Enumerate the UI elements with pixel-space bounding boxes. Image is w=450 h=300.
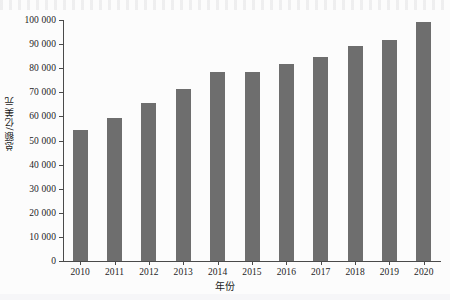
y-tick-label: 70 000 — [29, 87, 56, 97]
y-tick-label: 20 000 — [29, 208, 56, 218]
y-tick-label: 0 — [51, 256, 56, 266]
y-tick-label: 90 000 — [29, 39, 56, 49]
x-tick-mark — [424, 261, 425, 265]
x-tick-mark — [389, 261, 390, 265]
bar — [73, 130, 88, 261]
plot-area: 010 00020 00030 00040 00050 00060 00070 … — [63, 20, 441, 261]
x-tick-mark — [218, 261, 219, 265]
y-tick-label: 10 000 — [29, 232, 56, 242]
y-tick-label: 80 000 — [29, 63, 56, 73]
bar — [176, 89, 191, 261]
x-tick-label: 2014 — [208, 267, 227, 277]
x-tick-mark — [355, 261, 356, 265]
bar — [245, 72, 260, 261]
y-tick-mark — [59, 20, 63, 21]
x-tick-label: 2010 — [70, 267, 89, 277]
x-tick-mark — [149, 261, 150, 265]
bar — [107, 118, 122, 261]
chart-page: 总额/亿美元 010 00020 00030 00040 00050 00060… — [0, 0, 450, 300]
x-tick-label: 2013 — [174, 267, 193, 277]
x-tick-label: 2011 — [105, 267, 124, 277]
bar — [382, 40, 397, 261]
y-tick-label: 100 000 — [24, 15, 56, 25]
y-tick-mark — [59, 237, 63, 238]
y-axis-title: 总额/亿美元 — [3, 96, 19, 151]
scan-artifact-top — [0, 0, 450, 10]
y-tick-mark — [59, 68, 63, 69]
y-tick-label: 30 000 — [29, 184, 56, 194]
y-tick-label: 50 000 — [29, 136, 56, 146]
x-tick-label: 2020 — [414, 267, 433, 277]
x-tick-mark — [80, 261, 81, 265]
x-tick-label: 2015 — [242, 267, 261, 277]
x-tick-mark — [115, 261, 116, 265]
y-tick-mark — [59, 92, 63, 93]
bar — [348, 46, 363, 261]
x-tick-label: 2019 — [380, 267, 399, 277]
x-tick-label: 2012 — [139, 267, 158, 277]
x-tick-mark — [252, 261, 253, 265]
y-tick-mark — [59, 261, 63, 262]
bar — [210, 72, 225, 261]
y-tick-label: 40 000 — [29, 160, 56, 170]
y-tick-mark — [59, 165, 63, 166]
y-tick-mark — [59, 141, 63, 142]
x-tick-mark — [183, 261, 184, 265]
x-tick-label: 2016 — [277, 267, 296, 277]
y-tick-mark — [59, 44, 63, 45]
bar — [141, 103, 156, 261]
y-tick-mark — [59, 213, 63, 214]
x-axis-title: 年份 — [0, 278, 450, 293]
bar — [313, 57, 328, 261]
scan-artifact-bottom — [0, 294, 450, 300]
y-tick-label: 60 000 — [29, 111, 56, 121]
bar — [279, 64, 294, 261]
x-tick-mark — [321, 261, 322, 265]
y-axis-line — [63, 20, 64, 261]
x-tick-label: 2018 — [345, 267, 364, 277]
y-tick-mark — [59, 116, 63, 117]
y-tick-mark — [59, 189, 63, 190]
x-tick-mark — [286, 261, 287, 265]
bar — [416, 22, 431, 261]
x-tick-label: 2017 — [311, 267, 330, 277]
